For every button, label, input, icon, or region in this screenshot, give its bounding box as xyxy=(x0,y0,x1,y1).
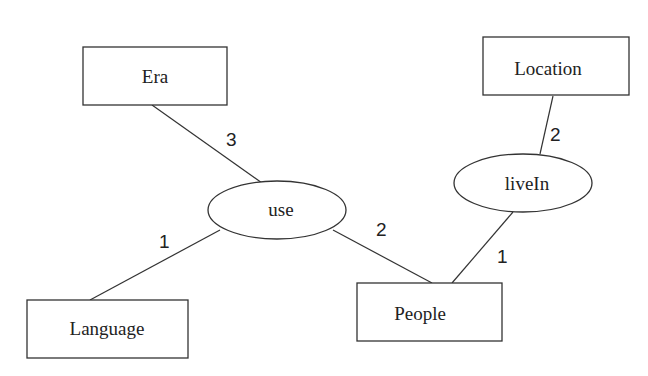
entity-location-label: Location xyxy=(514,58,582,79)
entity-people[interactable]: People xyxy=(357,283,502,341)
edge-era-use xyxy=(152,105,262,183)
entity-location[interactable]: Location xyxy=(483,37,629,95)
relationship-use-label: use xyxy=(268,199,293,220)
cardinality-language-use: 1 xyxy=(159,231,170,252)
entity-era-label: Era xyxy=(142,66,169,87)
er-diagram: Era Language People Location use liveIn … xyxy=(0,0,648,376)
entity-language-label: Language xyxy=(70,318,145,339)
entity-people-label: People xyxy=(394,303,446,324)
relationship-livein-label: liveIn xyxy=(505,173,550,194)
relationship-livein[interactable]: liveIn xyxy=(454,154,592,212)
cardinality-location-livein: 2 xyxy=(550,124,561,145)
entity-language[interactable]: Language xyxy=(27,300,188,358)
cardinality-era-use: 3 xyxy=(226,129,237,150)
relationship-use[interactable]: use xyxy=(208,181,346,239)
cardinality-people-use: 2 xyxy=(376,219,387,240)
entity-era[interactable]: Era xyxy=(83,47,227,105)
cardinality-people-livein: 1 xyxy=(497,246,508,267)
edge-language-use xyxy=(90,230,220,300)
